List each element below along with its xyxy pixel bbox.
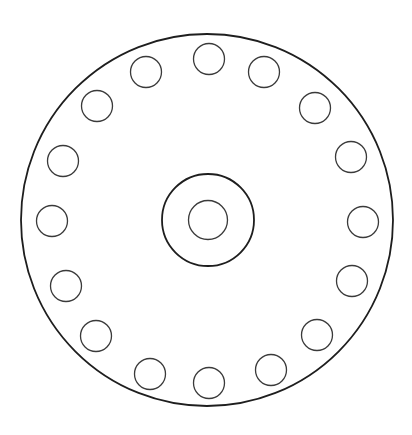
background [0, 0, 412, 435]
flange-diagram [0, 0, 412, 435]
